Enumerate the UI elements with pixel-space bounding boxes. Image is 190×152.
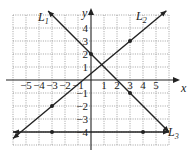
label-L3: L3 [167, 125, 179, 141]
x-tick-label: 3 [127, 79, 133, 91]
y-tick-label: −3 [76, 113, 88, 125]
data-point [89, 52, 93, 56]
data-point [50, 104, 54, 108]
data-point [128, 91, 132, 95]
x-tick-label: 4 [140, 79, 146, 91]
x-tick-label: 1 [101, 79, 107, 91]
x-tick-label: −4 [33, 79, 45, 91]
y-axis-arrow-icon [88, 8, 94, 15]
label-L2: L2 [135, 9, 147, 25]
coordinate-plane: x y −5−4−3−2−1123454321−1−2−3−4 L1 L2 L3 [0, 0, 190, 152]
y-axis-label: y [81, 6, 88, 20]
x-tick-label: 5 [153, 79, 159, 91]
line-L1 [48, 11, 169, 132]
y-tick-label: 4 [83, 22, 89, 34]
y-tick-label: 1 [83, 61, 89, 73]
data-point [141, 130, 145, 134]
y-tick-label: −1 [76, 87, 88, 99]
data-point [128, 39, 132, 43]
label-L1: L1 [37, 10, 49, 26]
x-axis-label: x [180, 81, 187, 95]
x-tick-label: −3 [46, 79, 58, 91]
x-tick-label: −2 [59, 79, 71, 91]
x-axis-arrow-icon [173, 77, 180, 83]
y-tick-label: 3 [83, 35, 89, 47]
x-tick-label: −5 [20, 79, 32, 91]
y-tick-label: −2 [76, 100, 88, 112]
data-point [50, 130, 54, 134]
